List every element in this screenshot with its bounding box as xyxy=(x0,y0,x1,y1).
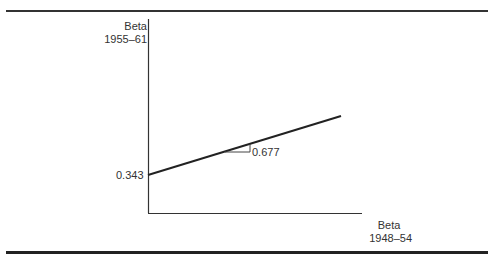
x-axis-label-line2: 1948–54 xyxy=(360,232,412,245)
y-axis-label-line2: 1955–61 xyxy=(104,33,147,46)
regression-line xyxy=(148,116,341,175)
x-axis-label-line1: Beta xyxy=(360,219,412,232)
slope-label: 0.677 xyxy=(252,146,280,159)
bottom-rule xyxy=(6,251,488,254)
x-axis-label: Beta 1948–54 xyxy=(360,219,412,245)
intercept-label: 0.343 xyxy=(116,169,144,182)
y-axis-label-line1: Beta xyxy=(104,20,147,33)
y-axis-label: Beta 1955–61 xyxy=(104,20,147,46)
chart-plot-area xyxy=(0,0,495,258)
